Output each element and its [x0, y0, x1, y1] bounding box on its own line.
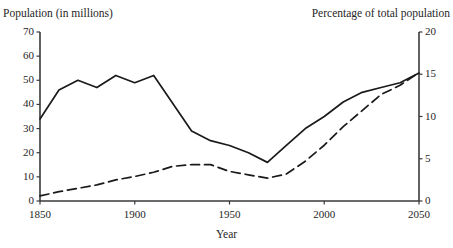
y-tick-label-left-20: 20	[10, 146, 34, 158]
y-tick-label-left-60: 60	[10, 49, 34, 61]
series-line-population	[40, 73, 419, 162]
y-tick-label-left-30: 30	[10, 122, 34, 134]
x-tick-label-2000: 2000	[304, 208, 344, 220]
y-tick-label-right-5: 5	[425, 152, 449, 164]
y-tick-label-right-15: 15	[425, 67, 449, 79]
y-tick-label-right-20: 20	[425, 25, 449, 37]
series-line-percentage	[40, 73, 419, 196]
y-tick-label-left-0: 0	[10, 194, 34, 206]
y-tick-label-right-0: 0	[425, 194, 449, 206]
y-tick-label-left-70: 70	[10, 25, 34, 37]
y-tick-label-right-10: 10	[425, 110, 449, 122]
y-tick-label-left-40: 40	[10, 97, 34, 109]
axis-ticks	[37, 32, 423, 205]
axis-lines	[40, 32, 419, 201]
y-tick-label-left-10: 10	[10, 170, 34, 182]
x-tick-label-1850: 1850	[20, 208, 60, 220]
x-axis-title: Year	[0, 228, 453, 240]
y-tick-label-left-50: 50	[10, 73, 34, 85]
x-tick-label-1950: 1950	[210, 208, 250, 220]
x-tick-label-2050: 2050	[399, 208, 439, 220]
immigration-chart: Population (in millions) Percentage of t…	[0, 0, 453, 248]
series-paths	[40, 73, 419, 196]
x-tick-label-1900: 1900	[115, 208, 155, 220]
